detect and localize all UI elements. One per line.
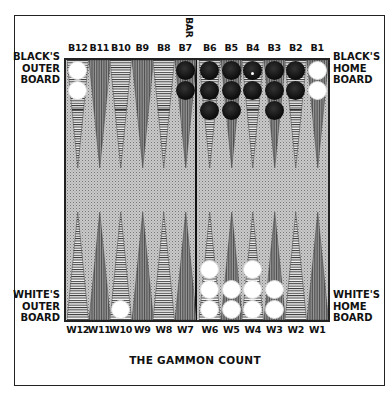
point-b11	[89, 60, 111, 168]
label-line: BOARD	[333, 74, 380, 86]
point-b12	[67, 60, 89, 168]
point-b1	[307, 60, 329, 168]
point-triangle	[307, 212, 329, 320]
black-checker[interactable]	[265, 101, 284, 120]
label-line: BOARD	[8, 74, 60, 86]
label-line: OUTER	[8, 301, 60, 313]
point-w3	[264, 212, 286, 320]
point-b10	[110, 60, 132, 168]
point-label-w3: W3	[262, 324, 286, 335]
point-label-w7: W7	[173, 324, 197, 335]
point-label-w5: W5	[219, 324, 243, 335]
point-label-b8: B8	[152, 42, 176, 53]
point-label-b9: B9	[130, 42, 154, 53]
point-triangle	[175, 212, 197, 320]
point-b3	[264, 60, 286, 168]
point-b6	[199, 60, 221, 168]
point-label-w9: W9	[130, 324, 154, 335]
checker-mark	[251, 72, 254, 75]
white-checker[interactable]	[222, 300, 241, 319]
label-line: BLACK'S	[8, 51, 60, 63]
label-white-home-board: WHITE'S HOME BOARD	[333, 289, 380, 324]
point-triangle	[110, 60, 132, 168]
white-checker[interactable]	[308, 61, 327, 80]
point-b2	[285, 60, 307, 168]
black-checker[interactable]	[222, 101, 241, 120]
point-triangle	[153, 60, 175, 168]
label-line: WHITE'S	[8, 289, 60, 301]
label-line: HOME	[333, 301, 380, 313]
point-w12	[67, 212, 89, 320]
point-w7	[175, 212, 197, 320]
point-label-b7: B7	[173, 42, 197, 53]
point-triangle	[285, 212, 307, 320]
label-white-outer-board: WHITE'S OUTER BOARD	[8, 289, 60, 324]
point-triangle	[132, 212, 154, 320]
black-checker[interactable]	[222, 81, 241, 100]
label-black-outer-board: BLACK'S OUTER BOARD	[8, 51, 60, 86]
black-checker[interactable]	[265, 61, 284, 80]
point-w11	[89, 212, 111, 320]
point-w6	[199, 212, 221, 320]
point-w2	[285, 212, 307, 320]
point-label-w8: W8	[152, 324, 176, 335]
point-label-w2: W2	[284, 324, 308, 335]
white-checker[interactable]	[265, 300, 284, 319]
point-b5	[221, 60, 243, 168]
point-label-b6: B6	[198, 42, 222, 53]
point-b9	[132, 60, 154, 168]
point-label-w1: W1	[305, 324, 329, 335]
diagram-caption: THE GAMMON COUNT	[0, 354, 390, 366]
point-w8	[153, 212, 175, 320]
point-label-w11: W11	[87, 324, 111, 335]
point-label-w12: W12	[66, 324, 90, 335]
point-label-b10: B10	[109, 42, 133, 53]
label-line: BOARD	[333, 312, 380, 324]
black-checker[interactable]	[265, 81, 284, 100]
point-label-b2: B2	[284, 42, 308, 53]
point-label-b11: B11	[87, 42, 111, 53]
label-line: BOARD	[8, 312, 60, 324]
label-black-home-board: BLACK'S HOME BOARD	[333, 51, 380, 86]
point-label-w4: W4	[241, 324, 265, 335]
point-label-b1: B1	[305, 42, 329, 53]
point-w10	[110, 212, 132, 320]
backgammon-board	[64, 58, 330, 322]
point-label-b4: B4	[241, 42, 265, 53]
point-w1	[307, 212, 329, 320]
point-triangle	[153, 212, 175, 320]
bar-label: BAR	[184, 17, 195, 37]
white-checker[interactable]	[308, 81, 327, 100]
point-label-w10: W10	[109, 324, 133, 335]
black-checker[interactable]	[222, 61, 241, 80]
point-label-w6: W6	[198, 324, 222, 335]
black-checker[interactable]	[176, 81, 195, 100]
label-line: HOME	[333, 63, 380, 75]
point-triangle	[67, 212, 89, 320]
point-triangle	[132, 60, 154, 168]
point-w9	[132, 212, 154, 320]
label-line: WHITE'S	[333, 289, 380, 301]
point-triangle	[89, 60, 111, 168]
point-b8	[153, 60, 175, 168]
white-checker[interactable]	[222, 280, 241, 299]
point-b7	[175, 60, 197, 168]
point-triangle	[89, 212, 111, 320]
point-label-b3: B3	[262, 42, 286, 53]
point-w4	[242, 212, 264, 320]
white-checker[interactable]	[265, 280, 284, 299]
label-line: BLACK'S	[333, 51, 380, 63]
point-label-b12: B12	[66, 42, 90, 53]
point-label-b5: B5	[219, 42, 243, 53]
label-line: OUTER	[8, 63, 60, 75]
point-b4	[242, 60, 264, 168]
black-checker[interactable]	[176, 61, 195, 80]
point-w5	[221, 212, 243, 320]
